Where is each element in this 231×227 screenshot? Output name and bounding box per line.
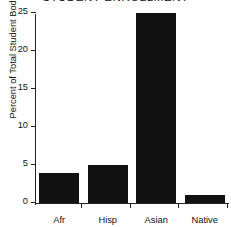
- x-tick: [81, 203, 82, 208]
- x-tick: [227, 203, 228, 208]
- y-tick-label: 10: [18, 120, 28, 130]
- bar: [88, 165, 128, 203]
- plot-area: 0510152025 AfrHispAsianNative: [35, 14, 229, 204]
- y-tick: 10: [31, 126, 36, 127]
- x-tick-label: Native: [192, 215, 218, 225]
- y-tick: 0: [31, 202, 36, 203]
- y-tick: 5: [31, 164, 36, 165]
- y-tick-label: 0: [23, 196, 28, 206]
- bar-chart: STUDENT ENROLLMENT Percent of Total Stud…: [0, 0, 231, 227]
- x-tick-label: Afr: [53, 215, 65, 225]
- y-tick-label: 20: [18, 44, 28, 54]
- chart-title: STUDENT ENROLLMENT: [0, 0, 231, 3]
- x-tick: [130, 203, 131, 208]
- x-tick: [178, 203, 179, 208]
- y-tick: 25: [31, 12, 36, 13]
- y-tick: 20: [31, 50, 36, 51]
- y-axis-line: [35, 14, 36, 205]
- bar: [39, 173, 79, 203]
- y-tick-label: 5: [23, 158, 28, 168]
- y-tick: 15: [31, 88, 36, 89]
- bar: [136, 13, 176, 203]
- x-tick-label: Asian: [145, 215, 168, 225]
- y-tick-label: 15: [18, 82, 28, 92]
- x-axis-line: [35, 203, 229, 204]
- x-tick-label: Hisp: [98, 215, 117, 225]
- y-tick-label: 25: [18, 6, 28, 16]
- y-axis-label: Percent of Total Student Body: [8, 0, 18, 132]
- bar: [185, 195, 225, 203]
